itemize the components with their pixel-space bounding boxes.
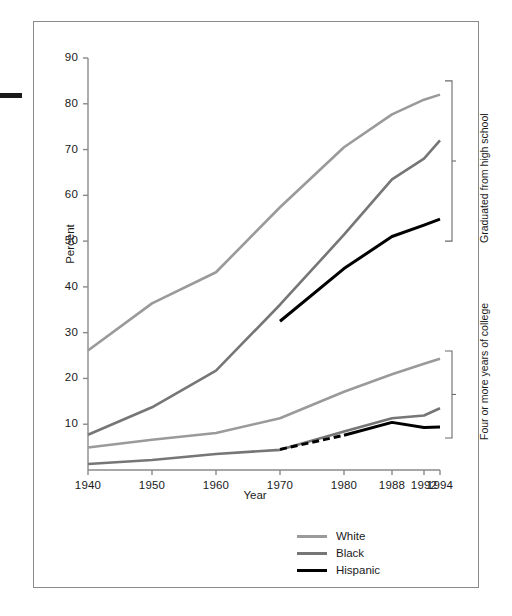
legend-swatch bbox=[297, 535, 327, 538]
y-axis-tick-label: 50 bbox=[50, 234, 78, 246]
x-axis-tick-label: 1950 bbox=[127, 479, 177, 491]
group-bracket-label: Graduated from high school bbox=[478, 114, 490, 244]
series-line bbox=[88, 408, 440, 464]
legend-label: Hispanic bbox=[336, 562, 380, 579]
y-axis-tick-label: 20 bbox=[50, 371, 78, 383]
series-line bbox=[88, 95, 440, 351]
y-axis-tick-label: 70 bbox=[50, 143, 78, 155]
legend-swatch bbox=[297, 552, 327, 555]
y-axis-tick-label: 40 bbox=[50, 280, 78, 292]
group-bracket bbox=[445, 81, 456, 241]
bracket-path bbox=[445, 81, 452, 241]
y-axis-tick-label: 60 bbox=[50, 188, 78, 200]
legend-item: White bbox=[297, 528, 437, 545]
legend-label: Black bbox=[336, 545, 364, 562]
x-axis-tick-label: 1970 bbox=[255, 479, 305, 491]
chart-legend: WhiteBlackHispanic bbox=[297, 528, 437, 579]
y-axis-tick-label: 80 bbox=[50, 97, 78, 109]
group-bracket bbox=[445, 351, 456, 438]
y-axis-tick-label: 30 bbox=[50, 326, 78, 338]
legend-swatch bbox=[297, 569, 327, 573]
legend-label: White bbox=[336, 528, 365, 545]
series-line bbox=[88, 140, 440, 434]
group-bracket-label: Four or more years of college bbox=[478, 303, 490, 440]
series-line bbox=[88, 359, 440, 448]
legend-item: Black bbox=[297, 545, 437, 562]
bracket-path bbox=[445, 351, 452, 438]
x-axis-tick-label: 1994 bbox=[415, 479, 465, 491]
legend-item: Hispanic bbox=[297, 562, 437, 579]
x-axis-tick-label: 1940 bbox=[63, 479, 113, 491]
y-axis-tick-label: 10 bbox=[50, 417, 78, 429]
y-axis-tick-label: 90 bbox=[50, 51, 78, 63]
x-axis-tick-label: 1980 bbox=[319, 479, 369, 491]
line-chart-plot bbox=[0, 0, 512, 616]
series-line bbox=[280, 219, 440, 321]
x-axis-tick-label: 1960 bbox=[191, 479, 241, 491]
